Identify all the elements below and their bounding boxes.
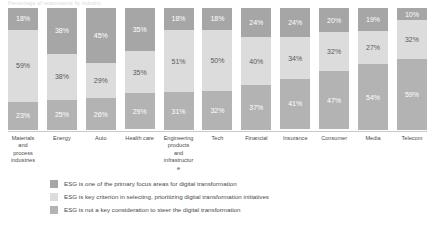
bar-segment-value-label: 47% [327,97,341,104]
bar-column: 35%35%29% [125,8,155,130]
legend-item[interactable]: ESG is one of the primary focus areas fo… [50,177,420,190]
bar-column: 45%29%26% [86,8,116,130]
plot-area: 18%59%23%38%38%25%45%29%26%35%35%29%18%5… [0,8,435,130]
bar-segment: 35% [125,8,155,51]
bar-segment: 32% [397,20,427,59]
bar-segment-value-label: 59% [16,62,30,69]
bar-segment: 41% [280,79,310,129]
bar-segment: 34% [280,37,310,78]
x-axis-category-label: Materials and process industries [8,135,38,171]
bar-segment-value-label: 59% [405,91,419,98]
chart-title-strip: Percentage of respondents by industry [8,0,308,7]
x-axis-category-label: Auto [86,135,116,171]
bar-column: 38%38%25% [47,8,77,130]
bar-segment-value-label: 32% [210,107,224,114]
legend-item[interactable]: ESG is not a key consideration to steer … [50,203,420,216]
bar-segment-value-label: 19% [366,16,380,23]
bar-segment-value-label: 38% [55,27,69,34]
x-axis-category-label: Energy [47,135,77,171]
bar-column: 10%32%59% [397,8,427,130]
bar-segment-value-label: 41% [288,100,302,107]
bar-segment-value-label: 31% [172,108,186,115]
legend-color-swatch [50,206,58,214]
bar-segment: 10% [397,8,427,20]
bar-segment: 32% [202,91,232,130]
x-axis-category-label: Financial [241,135,271,171]
bar-segment: 25% [47,100,77,130]
x-axis-category-labels: Materials and process industriesEnergyAu… [0,135,435,171]
x-axis-category-label: Tech [202,135,232,171]
bar-segment-value-label: 18% [16,15,30,22]
bar-segment: 59% [8,30,38,102]
bar-segment: 20% [319,8,349,32]
bar-segment: 38% [47,54,77,100]
bar-segment-value-label: 26% [94,111,108,118]
bar-segment: 23% [8,102,38,130]
bar-segment: 35% [125,51,155,94]
bar-column: 18%50%32% [202,8,232,130]
bar-segment: 27% [358,31,388,64]
bar-column: 18%51%31% [164,8,194,130]
bar-segment: 24% [280,8,310,37]
bar-column: 19%27%54% [358,8,388,130]
bar-segment: 26% [86,98,116,130]
bar-segment-value-label: 18% [210,15,224,22]
legend-color-swatch [50,193,58,201]
bar-segment-value-label: 51% [172,58,186,65]
bar-segment: 51% [164,30,194,92]
bar-segment: 47% [319,71,349,128]
bar-segment-value-label: 29% [133,108,147,115]
x-axis-category-label: Consumer [319,135,349,171]
bar-column: 24%40%37% [241,8,271,130]
bar-segment-value-label: 23% [16,112,30,119]
legend-label: ESG is key criterion in selecting, prior… [64,193,269,201]
bar-segment-value-label: 20% [327,17,341,24]
bar-segment-value-label: 35% [133,69,147,76]
legend-label: ESG is not a key consideration to steer … [64,206,240,214]
chart-legend: ESG is one of the primary focus areas fo… [50,177,420,216]
bar-segment: 37% [241,85,271,130]
legend-color-swatch [50,180,58,188]
bar-segment-value-label: 27% [366,44,380,51]
bar-segment-value-label: 40% [249,58,263,65]
x-axis-category-label: Health care [125,135,155,171]
bar-segment: 32% [319,32,349,71]
bar-segment-value-label: 24% [249,19,263,26]
bar-segment: 31% [164,92,194,130]
x-axis-category-label: Media [358,135,388,171]
bar-segment: 29% [86,63,116,98]
bar-segment-value-label: 37% [249,104,263,111]
bar-segment: 24% [241,8,271,37]
bar-segment: 29% [125,93,155,128]
bar-segment-value-label: 18% [172,15,186,22]
bar-segment: 18% [164,8,194,30]
bar-segment-value-label: 29% [94,77,108,84]
x-axis-line [8,131,427,132]
bar-segment: 50% [202,30,232,91]
bar-column: 18%59%23% [8,8,38,130]
bar-segment-value-label: 10% [405,11,419,18]
bar-segment-value-label: 32% [327,48,341,55]
bar-column: 20%32%47% [319,8,349,130]
bar-segment-value-label: 24% [288,19,302,26]
legend-item[interactable]: ESG is key criterion in selecting, prior… [50,190,420,203]
stacked-bar-chart: Percentage of respondents by industry 18… [0,0,435,225]
bar-segment: 19% [358,8,388,31]
x-axis-category-label: Telecom [397,135,427,171]
bar-segment-value-label: 25% [55,111,69,118]
legend-label: ESG is one of the primary focus areas fo… [64,180,237,188]
bar-segment-value-label: 35% [133,26,147,33]
bar-segment-value-label: 38% [55,73,69,80]
x-axis-category-label: Engineering products and infrastructure [164,135,194,171]
bar-segment: 18% [8,8,38,30]
bar-segment-value-label: 50% [210,57,224,64]
bar-segment-value-label: 54% [366,94,380,101]
bar-segment: 59% [397,59,427,130]
bar-segment-value-label: 34% [288,55,302,62]
bar-segment: 18% [202,8,232,30]
x-axis-category-label: Insurance [280,135,310,171]
bar-segment-value-label: 45% [94,32,108,39]
bar-segment-value-label: 32% [405,36,419,43]
bar-segment: 45% [86,8,116,63]
bar-segment: 38% [47,8,77,54]
